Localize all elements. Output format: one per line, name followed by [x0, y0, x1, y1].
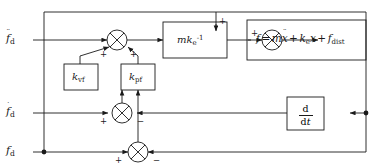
gain-vf-label: kvf	[72, 72, 85, 84]
sign-sum-command-left: +	[251, 29, 258, 38]
derivative-numerator: d	[293, 103, 318, 115]
plant-equation-label: f=m¨x+kex+fdist	[256, 33, 345, 46]
double-dot-accent-plant: ¨	[283, 29, 288, 37]
input-label-f-d: fd	[6, 145, 15, 157]
sign-sum-pos-left: +	[115, 156, 122, 165]
sum-pos-symbol	[128, 142, 148, 162]
gain-mk-label: mke-1	[177, 35, 204, 47]
node-dot-plant-out	[364, 111, 369, 116]
sum-accel-symbol	[107, 30, 127, 50]
sign-sum-accel-vf: +	[100, 50, 107, 59]
sign-sum-accel-pf: +	[130, 50, 137, 59]
input-label-f-ddot-d: ¨fd	[6, 33, 15, 45]
wire-nodes	[42, 111, 369, 155]
block-diagram-canvas: ¨fd ˙fd fd mke-1 kvf kpf f=m¨x+kex+fdist…	[0, 0, 378, 167]
subscript-d: d	[10, 149, 15, 158]
sign-sum-command-top: +	[219, 17, 226, 26]
sum-vel-symbol	[112, 103, 132, 123]
derivative-label: d dt	[293, 103, 318, 127]
sign-sum-pos-right: −	[153, 156, 160, 165]
double-dot-accent: ¨	[6, 29, 11, 37]
sign-sum-vel-right: −	[137, 117, 144, 126]
subscript-d: d	[10, 110, 15, 119]
gain-pf-label: kpf	[129, 72, 142, 84]
sign-sum-vel-left: +	[100, 117, 107, 126]
node-dot-left-trunk	[42, 150, 47, 155]
derivative-denominator: dt	[293, 116, 318, 128]
single-dot-accent: ˙	[6, 102, 11, 110]
diagram-wiring	[0, 0, 378, 167]
input-label-f-dot-d: ˙fd	[6, 106, 15, 118]
wire-outer-feedback	[44, 12, 366, 111]
subscript-d: d	[10, 37, 15, 46]
